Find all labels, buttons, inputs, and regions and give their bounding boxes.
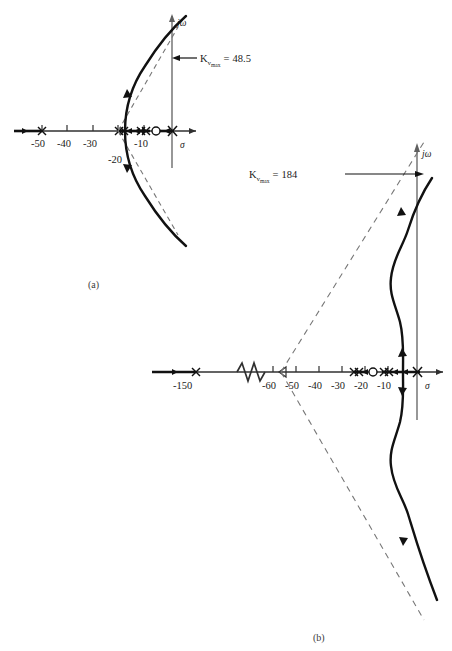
- plot-a-kv-value: 48.5: [233, 53, 251, 64]
- plot-b-branch-arrow-down-1: [398, 387, 407, 396]
- plot-a-kv-arrowhead: [172, 55, 180, 61]
- plot-b-tick-label-3: -40: [308, 380, 322, 391]
- plot-a: -50 -40 -30 -20 -10 σ jω: [14, 14, 251, 246]
- plot-b-imag-axis-arrowhead: [414, 143, 420, 152]
- plot-a-kv-sub2: max: [211, 62, 221, 68]
- plot-a-imag-axis-arrowhead: [169, 14, 175, 22]
- plot-a-tick-label-1: -40: [57, 138, 71, 149]
- plot-a-real-axis-arrowhead: [189, 128, 196, 134]
- plot-b-real-axis-arrowhead: [436, 369, 443, 375]
- plot-a-kv-label: Kvmax=48.5: [200, 53, 251, 68]
- plot-b-kv-value: 184: [282, 169, 299, 180]
- plot-a-tick-label-3: -20: [108, 154, 122, 165]
- plot-b-kv-label: Kvmax=184: [249, 169, 298, 184]
- plot-b: -150 -60 -50 -40 -30 -20 -10 σ jω: [152, 142, 443, 620]
- plot-b-kv-sub2: max: [260, 178, 270, 184]
- plot-b-branch-arrow-up-1: [398, 348, 407, 357]
- plot-b-branch-arrow-up-2: [397, 207, 406, 216]
- plot-a-tick-label-0: -50: [31, 138, 45, 149]
- plot-b-locus-upper-branch: [391, 178, 432, 372]
- plot-b-branch-arrow-down-2: [399, 537, 408, 546]
- plot-b-tick-label-5: -20: [354, 380, 368, 391]
- root-locus-figure: -50 -40 -30 -20 -10 σ jω: [0, 0, 452, 651]
- plot-b-locus-lower-branch: [391, 372, 437, 600]
- caption-a: (a): [88, 279, 99, 290]
- plot-a-tick-label-2: -30: [83, 138, 97, 149]
- plot-a-locus-upper-branch: [125, 16, 186, 131]
- plot-a-zero-marker: [152, 127, 160, 135]
- plot-a-sigma-label: σ: [180, 140, 185, 150]
- plot-b-tick-label-4: -30: [331, 380, 345, 391]
- plot-b-tick-label-6: -10: [377, 380, 391, 391]
- plot-b-zero-marker: [369, 368, 377, 376]
- plot-b-kv-equals: =: [273, 169, 279, 180]
- plot-b-tick-label-0: -150: [173, 380, 192, 391]
- plot-b-jomega-label: jω: [420, 149, 432, 159]
- caption-b: (b): [313, 632, 325, 643]
- plot-b-kv-arrowhead: [415, 171, 424, 177]
- plot-a-tick-label-4: -10: [134, 138, 148, 149]
- plot-a-kv-equals: =: [224, 53, 230, 64]
- plot-b-tick-label-1: -60: [262, 380, 276, 391]
- plot-b-sigma-label: σ: [425, 381, 430, 391]
